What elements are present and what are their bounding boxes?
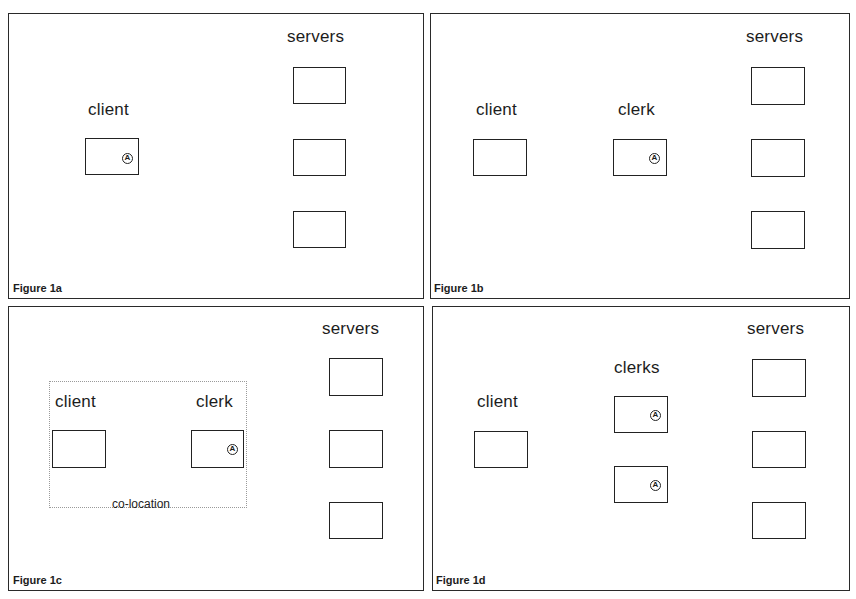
client-node (474, 431, 528, 468)
server-node (752, 359, 806, 397)
server-node (329, 502, 383, 539)
label-servers: servers (287, 27, 344, 47)
clerk-node: A (614, 396, 668, 433)
server-node (751, 139, 805, 177)
clerk-node: A (614, 466, 668, 503)
server-node (329, 430, 383, 468)
server-node (752, 502, 806, 539)
label-clerk: clerk (618, 100, 655, 120)
label-servers: servers (746, 27, 803, 47)
server-node (752, 431, 806, 468)
label-client: client (477, 392, 518, 412)
server-node (293, 67, 346, 104)
server-node (329, 358, 383, 396)
server-node (751, 211, 805, 249)
clerk-node: A (191, 430, 244, 468)
figure-caption: Figure 1a (13, 282, 62, 294)
label-servers: servers (747, 319, 804, 339)
timer-icon: A (227, 444, 238, 455)
figure-caption: Figure 1c (13, 574, 62, 586)
label-client: client (55, 392, 96, 412)
label-servers: servers (322, 319, 379, 339)
label-client: client (476, 100, 517, 120)
server-node (293, 139, 346, 176)
label-client: client (88, 100, 129, 120)
label-clerks: clerks (614, 358, 660, 378)
client-node (473, 139, 527, 176)
client-node: A (85, 138, 139, 175)
figure-caption: Figure 1d (436, 574, 486, 586)
timer-icon: A (650, 410, 661, 421)
timer-icon: A (122, 153, 133, 164)
clerk-node: A (613, 139, 667, 176)
timer-icon: A (650, 480, 661, 491)
timer-icon: A (649, 153, 660, 164)
label-clerk: clerk (196, 392, 233, 412)
panel-figure-1a (8, 13, 424, 299)
colocation-label: co-location (112, 497, 170, 511)
server-node (751, 67, 805, 105)
server-node (293, 211, 346, 248)
client-node (52, 430, 106, 468)
figure-caption: Figure 1b (434, 282, 484, 294)
